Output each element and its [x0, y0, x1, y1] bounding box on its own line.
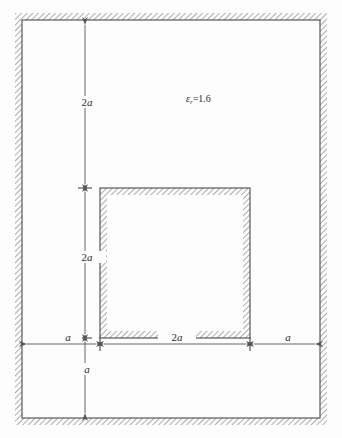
outer-conductor-boundary [22, 20, 320, 418]
dimension-label-outer-top-gap: 2a [68, 96, 106, 108]
permittivity-subscript: r [190, 98, 193, 106]
inner-conductor-boundary [100, 188, 250, 338]
permittivity-label: εr=1.6 [186, 93, 211, 105]
dimension-label-outer-bottom-gap: a [70, 363, 104, 375]
waveguide-cross-section-figure: 2a 2a a a 2a a εr=1.6 [0, 0, 342, 438]
outer-wall-hatching [15, 13, 327, 425]
dimension-label-right-gap: a [274, 331, 302, 343]
outer-conductor-wall [15, 13, 327, 425]
dimension-label-left-gap: a [54, 331, 82, 343]
figure-canvas [0, 0, 342, 438]
dimension-label-inner-height: 2a [68, 251, 106, 263]
dimension-label-inner-width: 2a [158, 331, 196, 343]
inner-conductor-hatching [100, 188, 250, 338]
inner-conductor [100, 188, 250, 338]
permittivity-value: 1.6 [198, 93, 211, 104]
vertical-dimension-group [78, 25, 92, 413]
